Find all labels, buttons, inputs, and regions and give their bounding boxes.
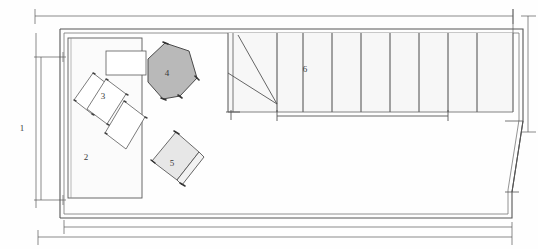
stair-run-6 [226,33,513,121]
label-1: 1 [20,123,25,133]
label-3: 3 [101,91,106,101]
tick-b2 [126,94,128,95]
tick-a3 [92,114,94,115]
label-2: 2 [84,152,89,162]
floor-plan-canvas: 1 2 3 4 5 6 [0,0,538,249]
label-4: 4 [165,68,170,78]
label-6: 6 [303,64,308,74]
furniture-rect-top [106,51,146,75]
tick-c1 [124,101,126,102]
tick-a1 [74,100,76,101]
tick-c2 [145,117,147,118]
floor-plan-drawing: 1 2 3 4 5 6 [0,0,538,249]
tick-a2 [93,73,95,74]
tick-c3 [105,133,107,134]
tick-b3 [107,124,109,125]
tick-b1 [106,79,108,80]
label-5: 5 [170,158,175,168]
